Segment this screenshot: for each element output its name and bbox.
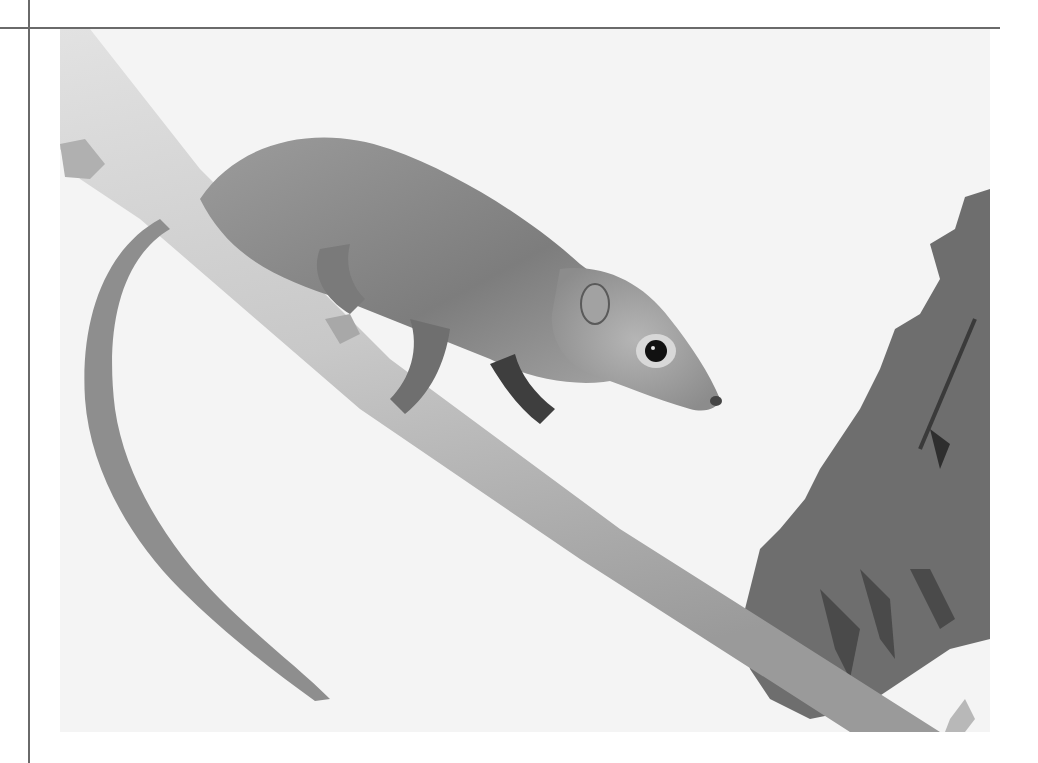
- nose: [710, 396, 722, 406]
- photograph: Treeshrew on a branch: [60, 29, 990, 732]
- ear: [581, 284, 609, 324]
- left-rule: [28, 0, 30, 763]
- eye: [645, 340, 667, 362]
